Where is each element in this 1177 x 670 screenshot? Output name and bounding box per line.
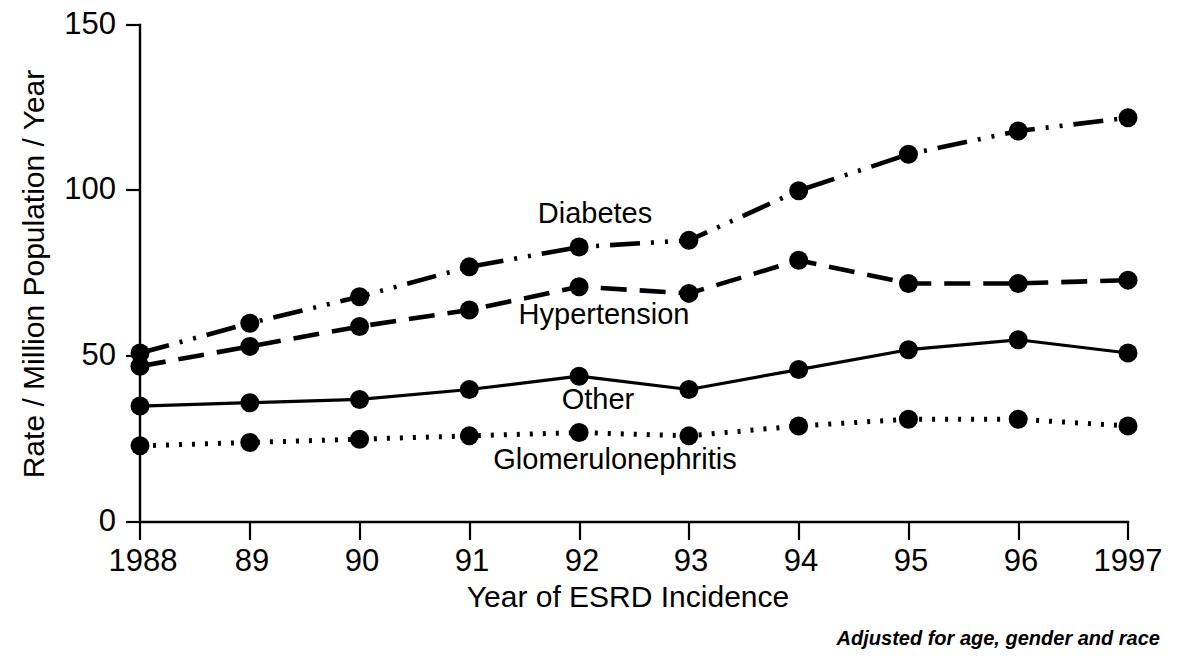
data-point bbox=[789, 181, 808, 200]
data-point bbox=[899, 410, 918, 429]
line-chart-figure: 150 100 50 0 1988 89 90 91 92 93 94 95 9… bbox=[0, 0, 1177, 670]
data-point bbox=[350, 430, 369, 449]
y-tick-label-50: 50 bbox=[82, 337, 116, 372]
data-point bbox=[570, 237, 589, 256]
x-tick-label-89: 89 bbox=[235, 543, 269, 578]
y-tick-label-0: 0 bbox=[99, 503, 116, 538]
series-annotation-glomerulonephritis: Glomerulonephritis bbox=[493, 443, 736, 475]
x-tick-label-95: 95 bbox=[894, 543, 928, 578]
series-annotation-hypertension: Hypertension bbox=[519, 298, 690, 330]
data-point bbox=[1119, 344, 1138, 363]
x-tick-label-94: 94 bbox=[784, 543, 818, 578]
data-point bbox=[1009, 122, 1028, 141]
data-point bbox=[789, 251, 808, 270]
data-point bbox=[460, 300, 479, 319]
data-point bbox=[460, 257, 479, 276]
data-point bbox=[899, 274, 918, 293]
series-annotation-other: Other bbox=[562, 383, 635, 415]
data-point bbox=[240, 393, 259, 412]
x-tick-label-93: 93 bbox=[674, 543, 708, 578]
data-point bbox=[1119, 271, 1138, 290]
x-tick-label-91: 91 bbox=[455, 543, 489, 578]
data-point bbox=[460, 380, 479, 399]
data-point bbox=[1009, 330, 1028, 349]
data-point bbox=[240, 314, 259, 333]
data-point bbox=[131, 357, 150, 376]
data-point bbox=[1009, 410, 1028, 429]
data-point bbox=[1119, 416, 1138, 435]
data-point bbox=[679, 380, 698, 399]
y-tick-label-150: 150 bbox=[64, 6, 116, 41]
x-tick-label-92: 92 bbox=[565, 543, 599, 578]
data-point bbox=[240, 337, 259, 356]
data-point bbox=[899, 145, 918, 164]
data-point bbox=[131, 436, 150, 455]
y-tick-label-100: 100 bbox=[64, 171, 116, 206]
x-tick-label-90: 90 bbox=[345, 543, 379, 578]
data-point bbox=[789, 360, 808, 379]
x-tick-label-96: 96 bbox=[1004, 543, 1038, 578]
x-tick-marks bbox=[140, 522, 1128, 540]
data-point bbox=[460, 426, 479, 445]
data-point bbox=[789, 416, 808, 435]
data-point bbox=[899, 340, 918, 359]
chart-container: 150 100 50 0 1988 89 90 91 92 93 94 95 9… bbox=[0, 0, 1177, 670]
data-point bbox=[350, 287, 369, 306]
data-point bbox=[679, 231, 698, 250]
series-line-glomerulonephritis bbox=[140, 419, 1128, 446]
y-tick-labels: 150 100 50 0 bbox=[64, 6, 116, 538]
data-point bbox=[1009, 274, 1028, 293]
data-point bbox=[240, 433, 259, 452]
footnote-adjustment-note: Adjusted for age, gender and race bbox=[836, 627, 1160, 649]
x-axis-title: Year of ESRD Incidence bbox=[467, 580, 789, 613]
data-point bbox=[131, 397, 150, 416]
data-point bbox=[350, 317, 369, 336]
series-annotation-diabetes: Diabetes bbox=[538, 197, 652, 229]
data-point bbox=[570, 423, 589, 442]
x-tick-label-1997: 1997 bbox=[1094, 543, 1163, 578]
data-point bbox=[1119, 108, 1138, 127]
x-tick-labels: 1988 89 90 91 92 93 94 95 96 1997 bbox=[109, 543, 1163, 578]
data-point bbox=[570, 277, 589, 296]
x-tick-label-1988: 1988 bbox=[109, 543, 178, 578]
data-point bbox=[350, 390, 369, 409]
y-axis-title: Rate / Million Population / Year bbox=[17, 70, 50, 479]
